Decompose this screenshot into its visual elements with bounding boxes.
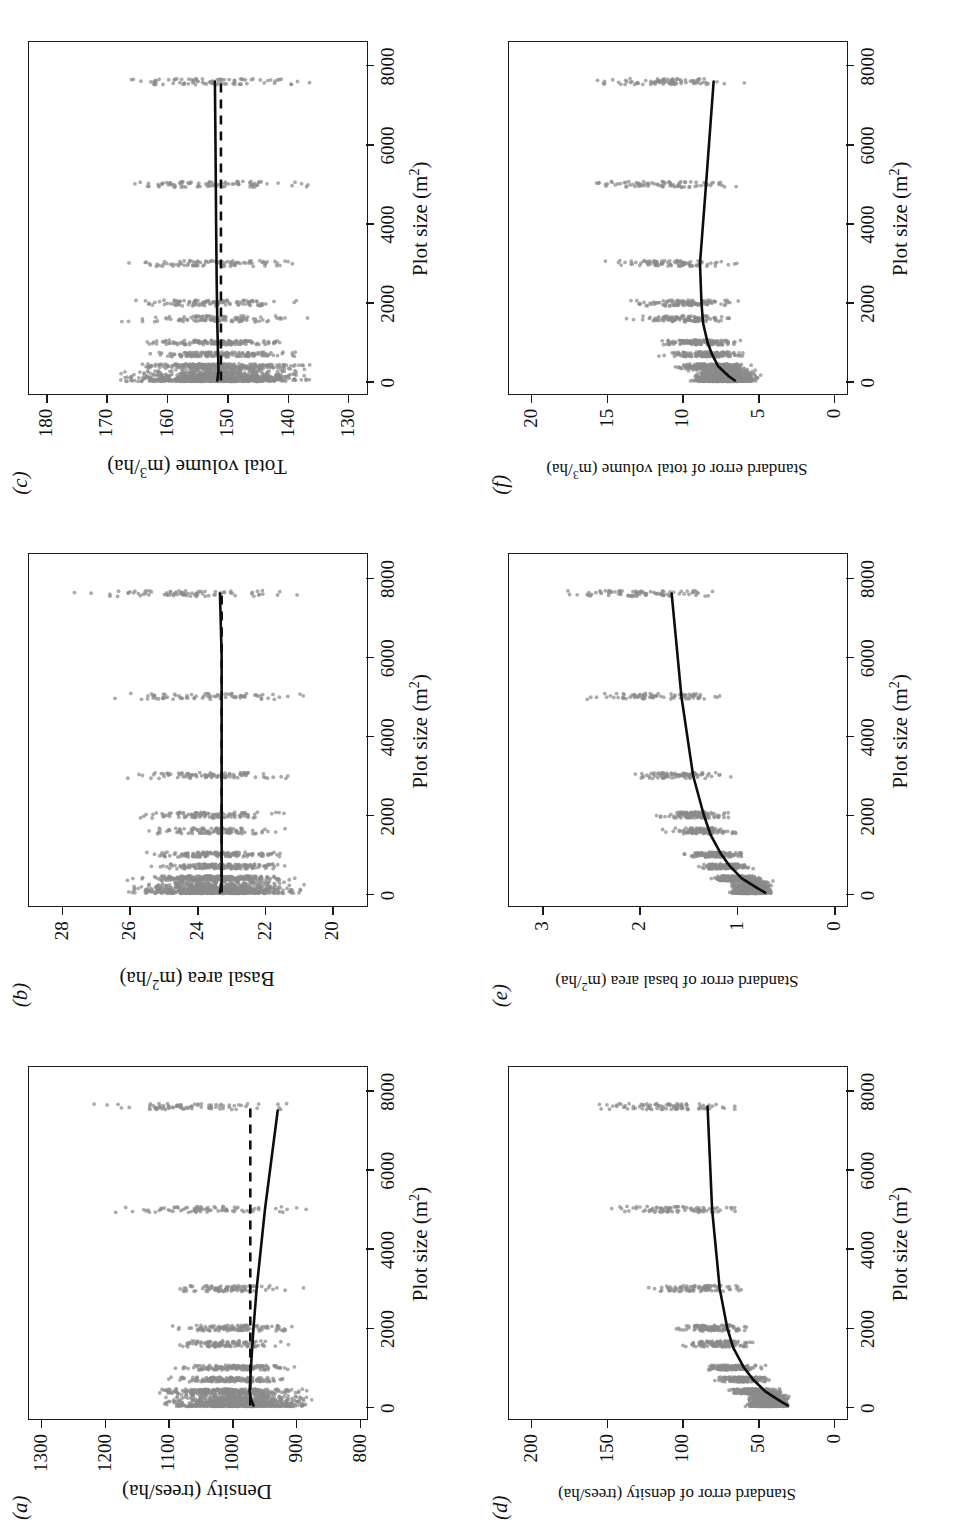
x-tick-label-f-1: 2000 [857, 285, 879, 323]
y-tick-label-e-3: 3 [531, 921, 553, 931]
data-points-f [595, 76, 763, 383]
y-tick-f-3 [607, 395, 609, 403]
y-tick-c-5 [46, 395, 48, 403]
x-tick-d-4 [846, 1090, 854, 1092]
y-tick-e-2 [639, 907, 641, 915]
x-tick-label-d-0: 0 [857, 1403, 879, 1413]
figure-canvas: (a)0200040006000800080090010001100120013… [0, 0, 960, 1538]
x-tick-label-e-3: 6000 [857, 639, 879, 677]
y-tick-label-d-0: 0 [823, 1434, 845, 1444]
x-tick-c-3 [366, 144, 374, 146]
y-tick-label-e-0: 0 [823, 921, 845, 931]
y-tick-c-3 [167, 395, 169, 403]
y-tick-label-e-2: 2 [628, 921, 650, 931]
x-tick-b-4 [366, 578, 374, 580]
x-tick-f-0 [846, 381, 854, 383]
y-tick-label-f-3: 15 [596, 409, 618, 428]
x-tick-label-f-4: 8000 [857, 47, 879, 85]
x-tick-e-0 [846, 894, 854, 896]
y-tick-label-d-3: 150 [596, 1434, 618, 1463]
figure-rotation-wrapper: (a)0200040006000800080090010001100120013… [0, 0, 960, 1538]
y-tick-a-0 [360, 1420, 362, 1428]
fit-line-d [708, 1107, 788, 1406]
panel-e: (e)020004000600080000123Plot size (m2)St… [480, 513, 960, 1026]
y-axis-title-a: Density (trees/ha) [122, 1479, 272, 1504]
x-tick-label-c-0: 0 [377, 378, 399, 388]
y-tick-label-f-1: 5 [747, 409, 769, 419]
x-tick-b-3 [366, 657, 374, 659]
x-axis-title-d: Plot size (m2) [888, 1187, 913, 1301]
y-tick-label-b-3: 26 [118, 921, 140, 940]
y-tick-c-0 [348, 395, 350, 403]
x-tick-label-f-0: 0 [857, 378, 879, 388]
x-tick-label-a-4: 8000 [377, 1073, 399, 1111]
x-axis-title-c: Plot size (m2) [408, 161, 433, 275]
y-tick-f-1 [758, 395, 760, 403]
x-tick-label-c-1: 2000 [377, 285, 399, 323]
y-tick-d-3 [607, 1420, 609, 1428]
y-tick-label-b-0: 20 [321, 921, 343, 940]
y-tick-b-3 [129, 907, 131, 915]
y-tick-f-4 [531, 395, 533, 403]
y-tick-label-d-1: 50 [747, 1434, 769, 1453]
y-tick-label-b-4: 28 [51, 921, 73, 940]
y-tick-label-a-5: 1300 [30, 1434, 52, 1472]
panel-label-f: (f) [488, 475, 513, 495]
x-tick-label-d-1: 2000 [857, 1310, 879, 1348]
x-tick-label-c-3: 6000 [377, 127, 399, 165]
y-tick-c-4 [106, 395, 108, 403]
y-tick-a-4 [105, 1420, 107, 1428]
x-tick-label-f-2: 4000 [857, 206, 879, 244]
y-tick-a-5 [41, 1420, 43, 1428]
y-tick-c-1 [288, 395, 290, 403]
x-tick-label-a-1: 2000 [377, 1310, 399, 1348]
plot-area-b [28, 553, 368, 907]
x-tick-label-a-3: 6000 [377, 1152, 399, 1190]
x-tick-label-b-4: 8000 [377, 560, 399, 598]
x-tick-label-a-0: 0 [377, 1403, 399, 1413]
y-tick-label-c-2: 150 [216, 409, 238, 438]
scatter-layer-d [509, 1067, 847, 1419]
x-tick-a-0 [366, 1407, 374, 1409]
y-tick-label-c-1: 140 [277, 409, 299, 438]
y-tick-label-b-2: 24 [186, 921, 208, 940]
y-tick-b-0 [332, 907, 334, 915]
y-tick-a-1 [296, 1420, 298, 1428]
x-tick-c-2 [366, 223, 374, 225]
panel-label-a: (a) [8, 1496, 33, 1521]
y-axis-title-d: Standard error of density (trees/ha) [558, 1484, 796, 1504]
scatter-layer-a [29, 1067, 367, 1419]
data-points-b [73, 589, 306, 895]
x-axis-title-f: Plot size (m2) [888, 161, 913, 275]
panel-label-e: (e) [488, 984, 513, 1007]
x-axis-title-b: Plot size (m2) [408, 674, 433, 788]
fit-line-a [250, 1111, 278, 1406]
y-tick-d-4 [531, 1420, 533, 1428]
plot-area-f [508, 41, 848, 395]
y-tick-label-c-5: 180 [35, 409, 57, 438]
x-tick-label-f-3: 6000 [857, 127, 879, 165]
x-tick-label-b-2: 4000 [377, 718, 399, 756]
x-tick-d-1 [846, 1328, 854, 1330]
x-tick-d-2 [846, 1248, 854, 1250]
y-tick-d-2 [682, 1420, 684, 1428]
data-points-a [92, 1102, 313, 1409]
x-tick-f-1 [846, 302, 854, 304]
y-tick-label-a-4: 1200 [94, 1434, 116, 1472]
x-tick-a-2 [366, 1248, 374, 1250]
y-tick-label-f-0: 0 [823, 409, 845, 419]
y-tick-label-c-4: 170 [95, 409, 117, 438]
panel-label-d: (d) [488, 1496, 513, 1521]
x-tick-label-e-1: 2000 [857, 797, 879, 835]
y-tick-d-1 [758, 1420, 760, 1428]
panel-a: (a)0200040006000800080090010001100120013… [0, 1025, 480, 1538]
y-tick-label-b-1: 22 [254, 921, 276, 940]
y-tick-label-a-0: 800 [349, 1434, 371, 1463]
x-tick-label-d-2: 4000 [857, 1231, 879, 1269]
panel-f: (f)0200040006000800005101520Plot size (m… [480, 0, 960, 513]
x-tick-d-0 [846, 1407, 854, 1409]
x-tick-e-1 [846, 815, 854, 817]
scatter-layer-b [29, 554, 367, 906]
x-tick-f-4 [846, 65, 854, 67]
panel-label-c: (c) [8, 471, 33, 494]
